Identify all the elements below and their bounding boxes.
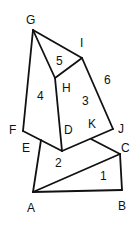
- region-label-3: 3: [82, 94, 89, 108]
- edge-BC: [120, 154, 122, 190]
- edge-AC: [33, 154, 120, 192]
- vertex-label-j: J: [118, 122, 124, 136]
- region-label-5: 5: [56, 54, 63, 68]
- vertex-label-g: G: [26, 13, 35, 27]
- geometry-diagram: GIHFEDKJCAB 123456: [0, 0, 138, 225]
- diagram-edges: [23, 30, 122, 192]
- vertex-label-e: E: [22, 141, 30, 155]
- vertex-label-f: F: [9, 123, 16, 137]
- vertex-labels: GIHFEDKJCAB: [9, 13, 130, 215]
- region-label-6: 6: [104, 73, 111, 87]
- vertex-label-h: H: [62, 81, 71, 95]
- vertex-label-i: I: [80, 36, 83, 50]
- edge-GF: [23, 30, 33, 131]
- vertex-label-d: D: [64, 123, 73, 137]
- vertex-label-b: B: [118, 199, 126, 213]
- edge-KC: [91, 139, 120, 154]
- edge-EA: [33, 140, 41, 192]
- region-label-4: 4: [37, 89, 44, 103]
- region-label-2: 2: [55, 156, 62, 170]
- vertex-label-a: A: [27, 201, 35, 215]
- vertex-label-c: C: [121, 141, 130, 155]
- edge-HD: [55, 78, 62, 151]
- vertex-label-k: K: [88, 117, 96, 131]
- edge-AB: [33, 190, 122, 192]
- region-label-1: 1: [100, 169, 107, 183]
